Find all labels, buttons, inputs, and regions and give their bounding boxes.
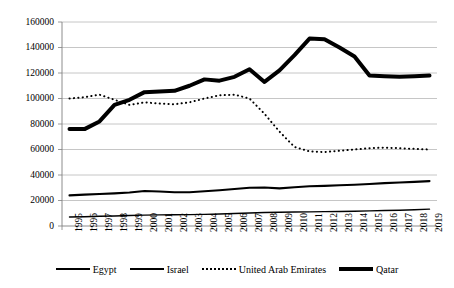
x-axis-tick-label: 2019 [434,213,444,232]
series-line [70,39,430,130]
x-axis-tick-label: 1995 [74,213,84,232]
x-axis-tick-label: 1998 [119,213,129,232]
legend-entry: Israel [130,264,189,275]
x-axis-tick-label: 2005 [224,213,234,232]
y-axis-tick-label: 100000 [0,93,54,103]
series-line [70,181,430,195]
y-axis-tick-label: 40000 [0,170,54,180]
legend-entry: United Arab Emirates [202,264,326,275]
y-axis-tick-label: 160000 [0,17,54,27]
x-axis-tick-label: 2004 [209,213,219,232]
legend-label: United Arab Emirates [239,264,326,275]
gridlines [62,22,437,201]
x-axis-tick-label: 1996 [89,213,99,232]
x-axis-tick-label: 1997 [104,213,114,232]
x-axis-tick-label: 2012 [329,213,339,232]
legend-label: Qatar [376,264,398,275]
legend-swatch-icon [202,264,236,274]
legend-swatch-icon [130,264,164,274]
x-axis-tick-label: 2002 [179,213,189,232]
legend-label: Egypt [93,264,117,275]
x-axis-tick-label: 2018 [419,213,429,232]
x-axis-tick-label: 2000 [149,213,159,232]
x-axis-ticks [58,22,437,230]
chart-canvas [0,0,454,288]
legend-entry: Egypt [56,264,117,275]
legend-swatch-icon [56,264,90,274]
x-axis-tick-label: 2013 [344,213,354,232]
x-axis-tick-label: 2009 [284,213,294,232]
legend-entry: Qatar [339,264,398,275]
y-axis-tick-label: 80000 [0,119,54,129]
x-axis-tick-label: 2003 [194,213,204,232]
series-lines [70,39,430,217]
y-axis-tick-label: 60000 [0,144,54,154]
x-axis-tick-label: 2006 [239,213,249,232]
y-axis-tick-label: 140000 [0,42,54,52]
line-chart: 0200004000060000800001000001200001400001… [0,0,454,288]
x-axis-tick-label: 2011 [314,213,324,232]
legend-label: Israel [167,264,189,275]
x-axis-tick-label: 2008 [269,213,279,232]
y-axis-tick-label: 0 [0,221,54,231]
legend-swatch-icon [339,264,373,274]
x-axis-tick-label: 1999 [134,213,144,232]
x-axis-tick-label: 2001 [164,213,174,232]
x-axis-tick-label: 2016 [389,213,399,232]
x-axis-tick-label: 2007 [254,213,264,232]
y-axis-tick-label: 20000 [0,195,54,205]
x-axis-tick-label: 2014 [359,213,369,232]
chart-legend: EgyptIsraelUnited Arab EmiratesQatar [0,258,454,280]
y-axis-tick-label: 120000 [0,68,54,78]
x-axis-tick-label: 2015 [374,213,384,232]
x-axis-tick-label: 2010 [299,213,309,232]
x-axis-tick-label: 2017 [404,213,414,232]
